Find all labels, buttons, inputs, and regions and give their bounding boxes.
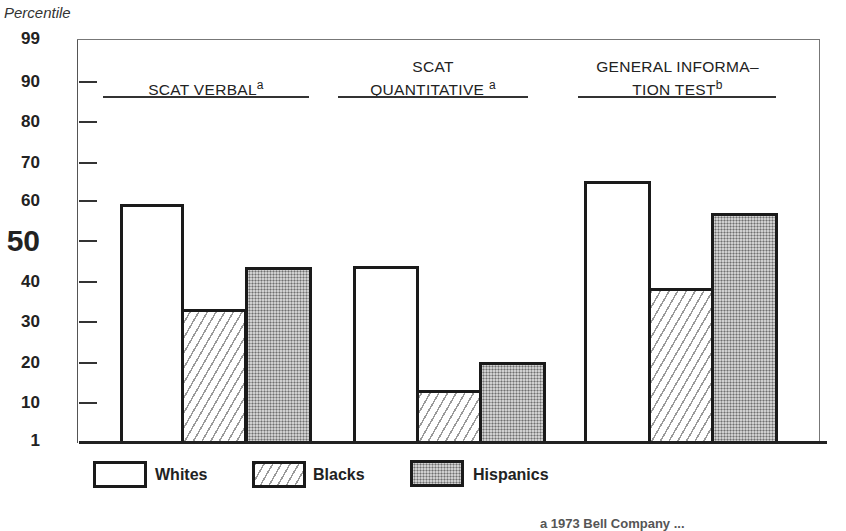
legend-label-whites: Whites bbox=[155, 466, 207, 484]
legend-swatch-blacks bbox=[252, 461, 306, 488]
footnote-marker: a bbox=[257, 78, 264, 92]
group-title-scat-quantitative: SCAT QUANTITATIVE a bbox=[338, 58, 528, 99]
y-tick-20 bbox=[79, 362, 97, 364]
footnote-marker: a bbox=[489, 78, 496, 92]
x-axis-baseline bbox=[79, 441, 827, 444]
y-tick-label-90: 90 bbox=[0, 73, 40, 90]
y-tick-label-80: 80 bbox=[0, 113, 40, 130]
y-tick-label-99: 99 bbox=[0, 30, 40, 47]
y-tick-30 bbox=[79, 321, 97, 323]
y-tick-80 bbox=[79, 121, 97, 123]
bar-general-information-test-hispanics bbox=[711, 213, 778, 442]
y-axis-title: Percentile bbox=[4, 4, 71, 21]
bar-general-information-test-blacks bbox=[648, 288, 714, 442]
y-tick-label-50: 50 bbox=[0, 226, 40, 256]
y-tick-label-70: 70 bbox=[0, 154, 40, 171]
y-tick-label-10: 10 bbox=[0, 394, 40, 411]
group-underline-scat-quantitative bbox=[338, 96, 528, 98]
bar-scat-quantitative-hispanics bbox=[479, 362, 546, 442]
y-tick-label-30: 30 bbox=[0, 313, 40, 330]
legend-swatch-hispanics bbox=[410, 460, 464, 487]
frame-top-border bbox=[77, 39, 819, 40]
legend-label-hispanics: Hispanics bbox=[473, 466, 549, 484]
frame-right-border bbox=[819, 39, 820, 443]
bar-scat-quantitative-blacks bbox=[416, 390, 482, 442]
group-title-line1: SCAT bbox=[338, 58, 528, 76]
source-footnote: a 1973 Bell Company ... bbox=[540, 516, 685, 531]
y-tick-label-40: 40 bbox=[0, 273, 40, 290]
bar-scat-quantitative-whites bbox=[353, 266, 419, 442]
legend-label-blacks: Blacks bbox=[313, 466, 365, 484]
bar-general-information-test-whites bbox=[584, 181, 651, 442]
bar-scat-verbal-whites bbox=[120, 204, 184, 442]
group-underline-general-information-test bbox=[578, 96, 776, 98]
y-tick-50 bbox=[79, 240, 97, 242]
y-tick-90 bbox=[79, 81, 97, 83]
y-tick-label-20: 20 bbox=[0, 354, 40, 371]
group-title-line1: GENERAL INFORMA– bbox=[570, 58, 785, 76]
bar-scat-verbal-hispanics bbox=[245, 267, 312, 442]
y-tick-label-1: 1 bbox=[0, 432, 40, 449]
footnote-marker: b bbox=[716, 78, 723, 92]
y-tick-40 bbox=[79, 281, 97, 283]
legend-swatch-whites bbox=[93, 461, 147, 488]
y-tick-label-60: 60 bbox=[0, 192, 40, 209]
y-tick-70 bbox=[79, 162, 97, 164]
group-underline-scat-verbal bbox=[103, 96, 309, 98]
group-title-general-information-test: GENERAL INFORMA– TION TESTb bbox=[570, 58, 785, 99]
y-tick-10 bbox=[79, 402, 97, 404]
y-axis-line bbox=[77, 39, 78, 443]
bar-scat-verbal-blacks bbox=[181, 309, 247, 442]
y-tick-60 bbox=[79, 200, 97, 202]
